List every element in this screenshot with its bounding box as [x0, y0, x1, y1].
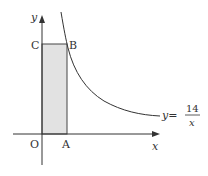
equation-denominator: x	[189, 117, 195, 128]
equation-lhs: y=	[161, 109, 177, 122]
hyperbola-curve	[61, 12, 160, 116]
point-b-label: B	[69, 39, 77, 52]
y-axis-label: y	[30, 11, 38, 24]
x-axis-label: x	[152, 140, 159, 153]
y-axis-arrow-icon	[39, 15, 45, 23]
rectangle-oabc	[42, 44, 67, 134]
equation-label: y= 14 x	[161, 103, 200, 128]
equation-numerator: 14	[186, 103, 199, 114]
diagram: y x O A B C y= 14 x	[0, 0, 208, 176]
point-c-label: C	[31, 39, 39, 52]
x-axis-arrow-icon	[152, 131, 160, 137]
origin-label: O	[30, 138, 39, 151]
point-a-label: A	[61, 138, 71, 151]
